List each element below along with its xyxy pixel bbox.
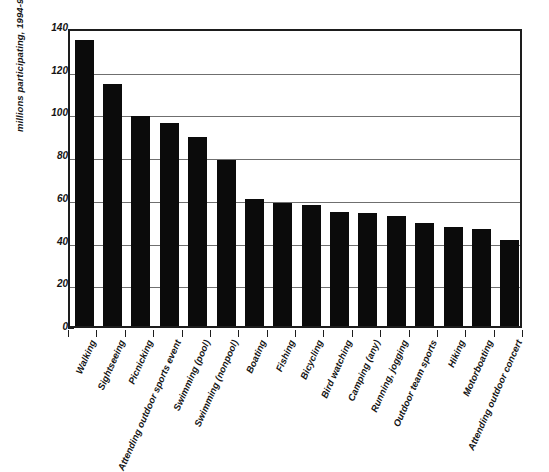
y-tick-label: 60	[28, 193, 68, 204]
x-axis-labels: WalkingSightseeingPicnickingAttending ou…	[68, 338, 538, 466]
bar	[75, 40, 94, 326]
y-tick-mark	[68, 328, 74, 329]
x-tick-label: Picnicking	[126, 338, 155, 386]
x-tick-mark	[68, 330, 69, 337]
x-tick-label: Attending outdoor concert	[465, 338, 524, 452]
y-tick-label: 80	[28, 150, 68, 161]
x-tick-label: Boating	[244, 338, 268, 375]
y-tick-label: 140	[28, 22, 68, 33]
y-axis-ticks: 020406080100120140	[16, 29, 68, 328]
y-tick-label: 20	[28, 278, 68, 289]
bar	[472, 229, 491, 326]
y-tick-label: 120	[28, 65, 68, 76]
x-tick-label: Sightseeing	[95, 338, 127, 392]
x-tick-label: Bicycling	[298, 338, 325, 381]
y-tick-label: 40	[28, 236, 68, 247]
bar	[103, 84, 122, 326]
x-tick-label: Fishing	[273, 338, 297, 373]
gridline	[70, 74, 520, 75]
x-tick-label: Walking	[73, 338, 98, 376]
y-tick-label: 0	[28, 321, 68, 332]
x-tick-label: Hiking	[445, 338, 467, 369]
y-tick-label: 100	[28, 107, 68, 118]
